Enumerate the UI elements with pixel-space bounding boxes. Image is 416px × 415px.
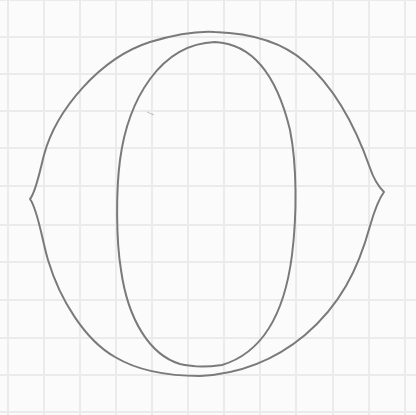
graph-paper: Pencil sketch of a letter-O shape on gri… [0,0,416,415]
pencil-sketch-canvas [0,0,416,415]
paper-background [0,0,416,415]
